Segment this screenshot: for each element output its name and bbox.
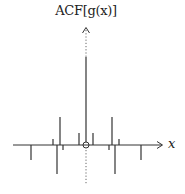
acf-stem-plot <box>0 0 185 194</box>
